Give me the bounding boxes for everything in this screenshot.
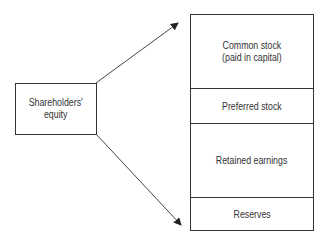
common-stock-label: Common stock bbox=[223, 40, 282, 51]
component-common-stock: Common stock (paid in capital) bbox=[191, 15, 313, 88]
shareholders-equity-box: Shareholders' equity bbox=[15, 83, 97, 135]
source-line2: equity bbox=[44, 109, 67, 120]
component-preferred-stock: Preferred stock bbox=[191, 88, 313, 124]
retained-earnings-label: Retained earnings bbox=[216, 155, 287, 167]
component-reserves: Reserves bbox=[191, 197, 313, 231]
component-retained-earnings: Retained earnings bbox=[191, 123, 313, 198]
arrow-up bbox=[96, 23, 178, 83]
reserves-label: Reserves bbox=[233, 209, 270, 221]
preferred-stock-label: Preferred stock bbox=[222, 101, 282, 113]
common-stock-sublabel: (paid in capital) bbox=[222, 52, 282, 63]
source-line1: Shareholders' bbox=[29, 97, 83, 108]
arrow-down bbox=[96, 134, 181, 225]
equity-components-stack: Common stock (paid in capital) Preferred… bbox=[190, 14, 314, 231]
